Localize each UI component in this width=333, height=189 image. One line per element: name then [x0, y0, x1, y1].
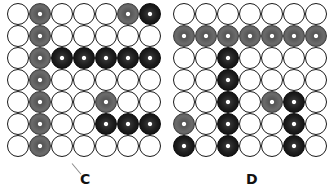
empty-circle — [195, 47, 217, 69]
empty-circle — [305, 91, 327, 113]
empty-circle — [73, 135, 95, 157]
black-circle — [217, 47, 239, 69]
empty-circle — [51, 113, 73, 135]
black-circle — [139, 47, 161, 69]
empty-circle — [51, 91, 73, 113]
gray-circle — [173, 113, 195, 135]
grid-panel-c — [7, 3, 161, 157]
empty-circle — [305, 47, 327, 69]
empty-circle — [261, 69, 283, 91]
black-circle — [139, 113, 161, 135]
black-circle — [73, 47, 95, 69]
empty-circle — [283, 47, 305, 69]
black-circle — [117, 47, 139, 69]
empty-circle — [173, 47, 195, 69]
empty-circle — [139, 25, 161, 47]
empty-circle — [195, 3, 217, 25]
empty-circle — [139, 135, 161, 157]
empty-circle — [283, 3, 305, 25]
gray-circle — [95, 91, 117, 113]
black-circle — [217, 91, 239, 113]
empty-circle — [239, 113, 261, 135]
empty-circle — [305, 113, 327, 135]
empty-circle — [7, 91, 29, 113]
gray-circle — [29, 135, 51, 157]
empty-circle — [117, 25, 139, 47]
empty-circle — [51, 69, 73, 91]
empty-circle — [173, 91, 195, 113]
empty-circle — [139, 69, 161, 91]
empty-circle — [261, 3, 283, 25]
empty-circle — [117, 91, 139, 113]
empty-circle — [7, 113, 29, 135]
gray-circle — [305, 25, 327, 47]
gray-circle — [239, 25, 261, 47]
gray-circle — [261, 91, 283, 113]
gray-circle — [117, 3, 139, 25]
empty-circle — [217, 3, 239, 25]
black-circle — [217, 69, 239, 91]
empty-circle — [73, 25, 95, 47]
empty-circle — [305, 135, 327, 157]
empty-circle — [195, 91, 217, 113]
empty-circle — [7, 25, 29, 47]
empty-circle — [73, 69, 95, 91]
gray-circle — [261, 25, 283, 47]
empty-circle — [7, 69, 29, 91]
empty-circle — [51, 135, 73, 157]
empty-circle — [51, 25, 73, 47]
gray-circle — [29, 47, 51, 69]
panel-label-c: C — [80, 172, 90, 186]
empty-circle — [239, 91, 261, 113]
empty-circle — [261, 113, 283, 135]
empty-circle — [239, 3, 261, 25]
empty-circle — [195, 113, 217, 135]
empty-circle — [283, 69, 305, 91]
empty-circle — [195, 135, 217, 157]
gray-circle — [29, 3, 51, 25]
empty-circle — [261, 47, 283, 69]
black-circle — [283, 91, 305, 113]
empty-circle — [239, 135, 261, 157]
empty-circle — [73, 91, 95, 113]
empty-circle — [173, 69, 195, 91]
black-circle — [217, 135, 239, 157]
empty-circle — [117, 69, 139, 91]
black-circle — [283, 135, 305, 157]
black-circle — [217, 113, 239, 135]
empty-circle — [7, 47, 29, 69]
black-circle — [173, 135, 195, 157]
empty-circle — [7, 3, 29, 25]
empty-circle — [139, 91, 161, 113]
gray-circle — [29, 25, 51, 47]
empty-circle — [173, 3, 195, 25]
panel-label-d: D — [246, 172, 258, 186]
gray-circle — [283, 25, 305, 47]
empty-circle — [95, 69, 117, 91]
empty-circle — [95, 135, 117, 157]
empty-circle — [305, 69, 327, 91]
empty-circle — [73, 3, 95, 25]
gray-circle — [195, 25, 217, 47]
black-circle — [51, 47, 73, 69]
empty-circle — [7, 135, 29, 157]
black-circle — [139, 3, 161, 25]
empty-circle — [305, 3, 327, 25]
empty-circle — [95, 25, 117, 47]
gray-circle — [217, 25, 239, 47]
grid-panel-d — [173, 3, 327, 157]
gray-circle — [29, 69, 51, 91]
black-circle — [95, 47, 117, 69]
gray-circle — [29, 113, 51, 135]
empty-circle — [195, 69, 217, 91]
empty-circle — [239, 69, 261, 91]
gray-circle — [173, 25, 195, 47]
empty-circle — [73, 113, 95, 135]
empty-circle — [239, 47, 261, 69]
empty-circle — [117, 135, 139, 157]
black-circle — [283, 113, 305, 135]
empty-circle — [51, 3, 73, 25]
empty-circle — [261, 135, 283, 157]
empty-circle — [95, 3, 117, 25]
gray-circle — [29, 91, 51, 113]
